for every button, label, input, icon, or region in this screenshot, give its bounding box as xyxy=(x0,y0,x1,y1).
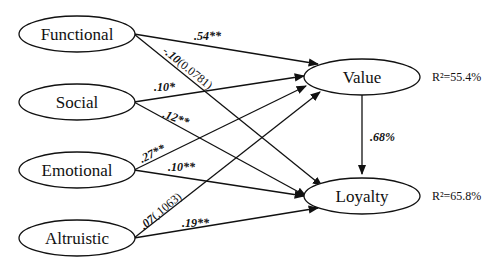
node-label: Social xyxy=(56,93,99,112)
node-functional: Functional xyxy=(19,16,135,52)
r2-value: R²=55.4% xyxy=(432,70,481,84)
node-loyalty: Loyalty xyxy=(304,178,420,214)
coef-social-value: .10* xyxy=(154,80,176,94)
edge-functional-loyalty xyxy=(134,34,322,186)
node-social: Social xyxy=(19,84,135,120)
coef-emotional-value: .27** xyxy=(137,140,168,165)
r2-loyalty: R²=65.8% xyxy=(432,189,481,203)
node-label: Emotional xyxy=(42,161,113,180)
node-label: Value xyxy=(343,68,382,87)
path-diagram: Functional Social Emotional Altruistic V… xyxy=(0,0,504,272)
node-label: Altruistic xyxy=(45,229,110,248)
node-emotional: Emotional xyxy=(19,152,135,188)
node-value: Value xyxy=(304,59,420,95)
coef-functional-value: .54** xyxy=(194,29,222,43)
coef-pvalue: (0.0781) xyxy=(175,55,216,92)
node-altruistic: Altruistic xyxy=(19,220,135,256)
node-label: Loyalty xyxy=(336,187,389,206)
coef-social-loyalty: .12** xyxy=(161,107,192,130)
edge-emotional-loyalty xyxy=(134,170,304,196)
coef-altruistic-loyalty: .19** xyxy=(182,216,210,230)
coef-value-loyalty: .68% xyxy=(370,130,395,144)
coef-emotional-loyalty: .10** xyxy=(168,160,196,174)
coef-pvalue: (.1063) xyxy=(148,189,184,222)
coef-altruistic-value: .07(.1063) xyxy=(137,189,184,232)
edge-functional-value xyxy=(134,34,318,64)
node-label: Functional xyxy=(41,25,114,44)
